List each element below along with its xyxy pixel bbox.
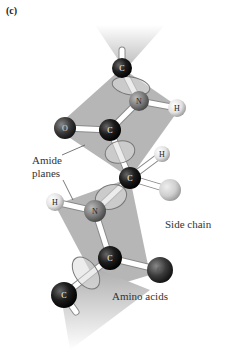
atom-nitrogen: N [84,200,106,222]
atom-carbon: C [112,58,132,78]
atom-carbon-alpha: C [119,167,141,189]
svg-text:C: C [107,126,112,135]
svg-text:C: C [127,174,132,183]
svg-text:N: N [92,207,98,216]
atom-oxygen: O [147,257,173,283]
svg-text:C: C [119,64,124,73]
atom-carbon: C [99,119,121,141]
atom-hydrogen: H [46,193,64,211]
svg-text:H: H [52,198,58,207]
atom-hydrogen: H [154,146,170,162]
atom-side-chain [159,179,181,201]
svg-text:C: C [61,291,66,300]
svg-text:O: O [157,266,163,275]
atom-carbon: C [51,282,77,308]
label-amino-acids: Amino acids [112,290,168,302]
atom-oxygen: O [54,117,76,139]
atom-carbon: C [98,246,122,270]
svg-text:N: N [136,97,142,106]
label-side-chain: Side chain [165,218,212,230]
label-amide-line2: planes [32,167,60,179]
peptide-diagram: C N H O C H C H N C O C Amide planes Sid… [0,0,225,355]
svg-text:H: H [159,150,165,159]
leader-lines [62,145,85,200]
atom-hydrogen: H [168,99,186,117]
svg-text:O: O [62,124,68,133]
label-amide-line1: Amide [32,154,62,166]
svg-text:H: H [174,104,180,113]
svg-text:C: C [107,254,112,263]
atom-nitrogen: N [129,91,149,111]
